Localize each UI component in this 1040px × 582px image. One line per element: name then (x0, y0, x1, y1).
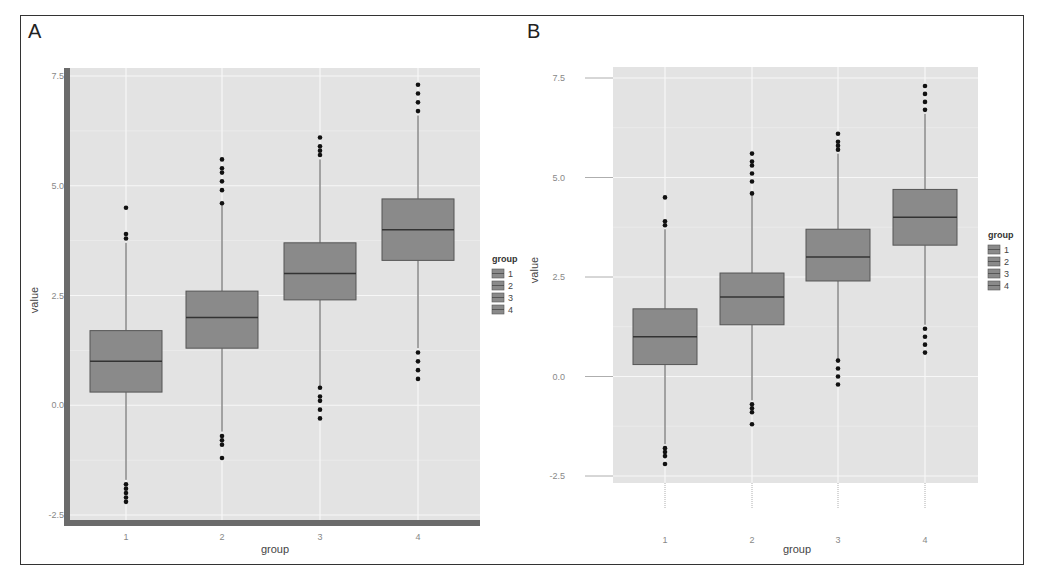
outlier-point (220, 188, 225, 193)
plot-background (613, 67, 978, 483)
box (806, 229, 870, 281)
outlier-point (416, 359, 421, 364)
outlier-point (836, 374, 841, 379)
box (284, 243, 356, 300)
outlier-point (318, 148, 323, 153)
y-tick-label: 5.0 (51, 181, 64, 191)
outlier-point (318, 399, 323, 404)
outlier-point (750, 151, 755, 156)
y-tick-label: -2.5 (549, 471, 565, 481)
outlier-point (750, 191, 755, 196)
outlier-point (663, 454, 668, 459)
x-tick-label: 2 (219, 532, 224, 542)
legend-title: group (492, 254, 518, 264)
outlier-point (750, 179, 755, 184)
outlier-point (923, 326, 928, 331)
legend: group1234 (988, 230, 1014, 291)
outlier-point (124, 486, 129, 491)
outlier-point (923, 100, 928, 105)
x-axis-label: group (783, 543, 811, 555)
legend-label: 4 (1004, 281, 1009, 291)
outlier-point (923, 84, 928, 89)
x-tick-label: 4 (922, 535, 927, 545)
x-tick-label: 1 (662, 535, 667, 545)
outlier-point (220, 438, 225, 443)
outlier-point (923, 334, 928, 339)
outlier-point (220, 201, 225, 206)
outlier-point (923, 342, 928, 347)
outlier-point (220, 434, 225, 439)
outlier-point (124, 491, 129, 496)
outlier-point (836, 358, 841, 363)
plot-panel-a: -2.50.02.55.07.51234groupvaluegroup1234 (28, 68, 518, 555)
y-tick-label: 7.5 (51, 71, 64, 81)
legend-label: 4 (508, 305, 513, 315)
axis-frame-bottom (64, 520, 480, 526)
y-tick-label: -2.5 (48, 510, 64, 520)
y-tick-label: 0.0 (552, 372, 565, 382)
outlier-point (124, 495, 129, 500)
outlier-point (663, 223, 668, 228)
legend-label: 2 (508, 281, 513, 291)
legend: group1234 (492, 254, 518, 315)
outlier-point (318, 135, 323, 140)
y-tick-label: 0.0 (51, 400, 64, 410)
legend-label: 3 (1004, 269, 1009, 279)
outlier-point (836, 382, 841, 387)
outlier-point (124, 236, 129, 241)
y-axis-label: value (28, 287, 40, 313)
outlier-point (663, 450, 668, 455)
legend-label: 2 (1004, 257, 1009, 267)
outlier-point (220, 179, 225, 184)
outlier-point (750, 402, 755, 407)
box (720, 273, 784, 325)
outlier-point (318, 385, 323, 390)
legend-title: group (988, 230, 1014, 240)
outlier-point (923, 350, 928, 355)
box (186, 291, 258, 348)
outlier-point (663, 462, 668, 467)
outlier-point (416, 377, 421, 382)
outlier-point (750, 410, 755, 415)
outlier-point (663, 446, 668, 451)
outlier-point (923, 108, 928, 113)
x-axis-label: group (261, 543, 289, 555)
outlier-point (836, 366, 841, 371)
legend-label: 1 (1004, 245, 1009, 255)
outlier-point (318, 416, 323, 421)
x-tick-label: 2 (749, 535, 754, 545)
outlier-point (124, 482, 129, 487)
outlier-point (220, 166, 225, 171)
outlier-point (750, 406, 755, 411)
outlier-point (750, 159, 755, 164)
outlier-point (923, 92, 928, 97)
outlier-point (750, 163, 755, 168)
outlier-point (836, 131, 841, 136)
outlier-point (663, 219, 668, 224)
x-tick-label: 3 (835, 535, 840, 545)
outlier-point (124, 232, 129, 237)
x-tick-label: 4 (415, 532, 420, 542)
outlier-point (220, 456, 225, 461)
outlier-point (318, 394, 323, 399)
outlier-point (416, 109, 421, 114)
outlier-point (836, 147, 841, 152)
outlier-point (663, 195, 668, 200)
outlier-point (318, 144, 323, 149)
outlier-point (750, 422, 755, 427)
outlier-point (836, 139, 841, 144)
axis-frame-left (64, 68, 70, 526)
y-tick-label: 7.5 (552, 73, 565, 83)
outlier-point (220, 157, 225, 162)
outlier-point (416, 100, 421, 105)
outlier-point (750, 171, 755, 176)
outlier-point (416, 350, 421, 355)
outlier-point (416, 368, 421, 373)
outlier-point (318, 407, 323, 412)
legend-label: 1 (508, 269, 513, 279)
outlier-point (124, 500, 129, 505)
x-tick-label: 3 (317, 532, 322, 542)
plot-panel-b: -2.50.02.55.07.51234groupvaluegroup1234 (528, 67, 1014, 555)
x-tick-label: 1 (123, 532, 128, 542)
y-tick-label: 5.0 (552, 173, 565, 183)
